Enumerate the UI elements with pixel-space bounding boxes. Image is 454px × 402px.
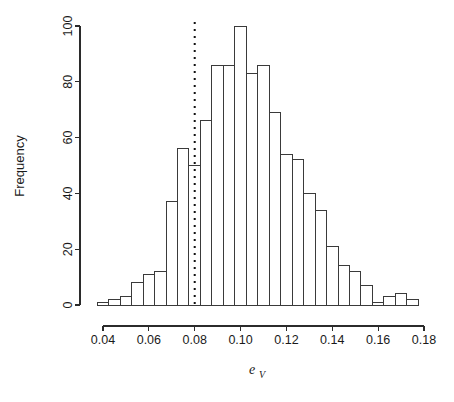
x-axis-tick-label: 0.14 xyxy=(320,333,344,347)
histogram-bar xyxy=(338,266,349,305)
histogram-bar xyxy=(281,154,292,305)
histogram-bar xyxy=(292,160,303,305)
histogram-bar xyxy=(269,112,280,305)
x-axis-tick-label: 0.08 xyxy=(183,333,207,347)
histogram-bar xyxy=(109,299,120,305)
x-axis-tick-label: 0.16 xyxy=(366,333,390,347)
histogram-bar xyxy=(246,73,257,305)
y-axis-tick-label: 100 xyxy=(61,16,75,37)
histogram-chart: 020406080100 0.040.060.080.100.120.140.1… xyxy=(0,0,454,402)
histogram-bar xyxy=(361,285,372,305)
x-axis-tick-label: 0.12 xyxy=(274,333,298,347)
y-axis-tick-label: 80 xyxy=(61,75,75,89)
histogram-bar xyxy=(120,297,131,305)
histogram-figure: 020406080100 0.040.060.080.100.120.140.1… xyxy=(0,0,454,402)
histogram-bar xyxy=(327,246,338,305)
y-axis-tick-label: 0 xyxy=(61,301,75,308)
histogram-bar xyxy=(166,202,177,305)
histogram-bar xyxy=(212,65,223,305)
x-axis-title: e xyxy=(249,362,255,377)
histogram-bar xyxy=(132,283,143,305)
y-axis-tick-label: 20 xyxy=(61,242,75,256)
histogram-bar xyxy=(223,65,234,305)
histogram-bar xyxy=(97,302,108,305)
histogram-bar xyxy=(384,297,395,305)
histogram-bar xyxy=(200,121,211,305)
y-axis-tick-label: 60 xyxy=(61,131,75,145)
histogram-bar xyxy=(143,274,154,305)
y-axis-tick-label: 40 xyxy=(61,186,75,200)
x-axis-tick-label: 0.10 xyxy=(228,333,252,347)
histogram-bar xyxy=(178,149,189,305)
histogram-bar xyxy=(155,272,166,305)
histogram-bar xyxy=(395,294,406,305)
histogram-bar xyxy=(315,210,326,305)
x-axis-tick-label: 0.06 xyxy=(137,333,161,347)
histogram-bar xyxy=(372,302,383,305)
histogram-bar xyxy=(189,166,200,306)
histogram-bar xyxy=(407,299,418,305)
histogram-bar xyxy=(258,65,269,305)
x-axis-tick-label: 0.04 xyxy=(91,333,115,347)
histogram-bar xyxy=(304,193,315,305)
x-axis-tick-label: 0.18 xyxy=(412,333,436,347)
y-axis-title: Frequency xyxy=(12,135,27,197)
histogram-bar xyxy=(349,272,360,305)
histogram-bar xyxy=(235,26,246,305)
